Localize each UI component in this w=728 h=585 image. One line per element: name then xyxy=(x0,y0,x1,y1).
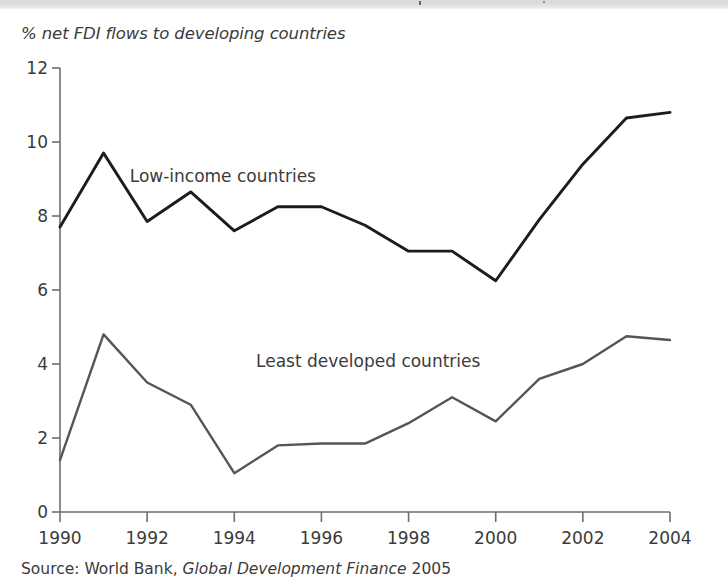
x-axis-tick-label: 1990 xyxy=(38,528,81,548)
source-publication: Global Development Finance xyxy=(183,560,407,578)
y-axis-tick-label: 10 xyxy=(14,132,48,152)
source-year: 2005 xyxy=(412,560,451,578)
series-line-low-income xyxy=(60,112,670,280)
series-label-least-developed: Least developed countries xyxy=(256,351,480,371)
line-chart xyxy=(0,0,728,585)
x-axis-tick-label: 2004 xyxy=(648,528,691,548)
x-axis-tick-label: 1998 xyxy=(387,528,430,548)
source-note: Source: World Bank, Global Development F… xyxy=(21,560,451,578)
x-axis-tick-label: 2000 xyxy=(474,528,517,548)
x-axis-tick-label: 1996 xyxy=(300,528,343,548)
y-axis-tick-label: 4 xyxy=(14,354,48,374)
x-axis-tick-label: 1992 xyxy=(126,528,169,548)
y-axis-tick-label: 2 xyxy=(14,428,48,448)
y-axis-tick-label: 0 xyxy=(14,502,48,522)
y-axis-tick-label: 8 xyxy=(14,206,48,226)
source-prefix: Source: World Bank, xyxy=(21,560,178,578)
x-axis-tick-label: 1994 xyxy=(213,528,256,548)
y-axis-tick-label: 6 xyxy=(14,280,48,300)
series-label-low-income: Low-income countries xyxy=(130,166,316,186)
x-axis-tick-label: 2002 xyxy=(561,528,604,548)
y-axis-tick-label: 12 xyxy=(14,58,48,78)
